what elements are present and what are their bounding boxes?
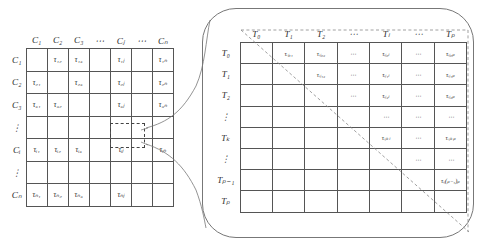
- row-label-c3: C₃: [8, 94, 26, 117]
- cell: τᵢⱼ₀ₚ: [434, 43, 466, 64]
- col-header-c1: C₁: [26, 32, 47, 49]
- cell: ⋯: [434, 148, 466, 169]
- col-header-ellipsis-1: ⋯: [337, 26, 369, 43]
- cell: [402, 191, 434, 212]
- cell: ⋯: [337, 64, 369, 85]
- cell: ⋯: [434, 106, 466, 127]
- cell: ⋯: [402, 148, 434, 169]
- table-row: Tₚ: [212, 191, 467, 212]
- cell: [68, 94, 89, 117]
- cell: [131, 184, 152, 207]
- cell: [305, 148, 337, 169]
- cell: [47, 161, 68, 184]
- cell: [272, 85, 304, 106]
- cell: [305, 170, 337, 191]
- row-label-c2: C₂: [8, 71, 26, 94]
- cell: [89, 139, 110, 162]
- cell: [272, 127, 304, 148]
- cell: [26, 116, 47, 139]
- row-label-ci: Cᵢ: [8, 139, 26, 162]
- cell: [272, 191, 304, 212]
- left-matrix: C₁ C₂ C₃ ⋯ Cⱼ ⋯ Cₙ C₁ τ₁₂ τ₁₃ τ₁ⱼ τ₁ₙ C₂: [8, 32, 174, 207]
- cell: [337, 191, 369, 212]
- cell: [305, 85, 337, 106]
- cell: [240, 43, 272, 64]
- cell: ⋯: [337, 43, 369, 64]
- cell: [89, 116, 110, 139]
- col-header-cj: Cⱼ: [110, 32, 131, 49]
- col-header-ellipsis-2: ⋯: [131, 32, 152, 49]
- table-row: Cᵢ τᵢ₁ τᵢ₂ τᵢ₃ τᵢⱼ τᵢₙ: [8, 139, 174, 162]
- cell: τ₁ⱼ: [110, 49, 131, 72]
- cell: [131, 71, 152, 94]
- cell: τᵢ₃: [68, 139, 89, 162]
- cell: τ₁₃: [68, 49, 89, 72]
- cell: τᵢⱼ₀₁: [272, 43, 304, 64]
- cell: [110, 161, 131, 184]
- cell: [402, 170, 434, 191]
- row-label-ellipsis-2: ⋮: [212, 148, 240, 169]
- cell: [305, 191, 337, 212]
- cell: ⋯: [402, 85, 434, 106]
- cell: τ₁₂: [47, 49, 68, 72]
- cell: τₙⱼ: [110, 184, 131, 207]
- cell: [89, 161, 110, 184]
- cell: [47, 116, 68, 139]
- cell: τ₃₁: [26, 94, 47, 117]
- cell: τₙ₁: [26, 184, 47, 207]
- table-row: C₁ τ₁₂ τ₁₃ τ₁ⱼ τ₁ₙ: [8, 49, 174, 72]
- cell: τᵢⱼ₁ₚ: [434, 64, 466, 85]
- col-header-c3: C₃: [68, 32, 89, 49]
- cell: [26, 161, 47, 184]
- col-header-c2: C₂: [47, 32, 68, 49]
- col-header-tl: Tₗ: [370, 26, 402, 43]
- cell: τ₂ₙ: [152, 71, 173, 94]
- cell: [337, 127, 369, 148]
- corner-spacer: [212, 26, 240, 43]
- table-row: T₁ τᵢⱼ₁₂ ⋯ τᵢⱼ₁ₗ ⋯ τᵢⱼ₁ₚ: [212, 64, 467, 85]
- cell: ⋯: [402, 43, 434, 64]
- cell: [240, 106, 272, 127]
- table-row: C₂ τ₂₁ τ₂₃ τ₂ⱼ τ₂ₙ: [8, 71, 174, 94]
- cell: [434, 191, 466, 212]
- cell: [89, 71, 110, 94]
- cell: [240, 64, 272, 85]
- cell: τ₂₁: [26, 71, 47, 94]
- row-label-ellipsis-1: ⋮: [8, 116, 26, 139]
- row-label-ellipsis-2: ⋮: [8, 161, 26, 184]
- cell: [337, 148, 369, 169]
- row-label-t2: T₂: [212, 85, 240, 106]
- time-pheromone-table: T₀ T₁ T₂ ⋯ Tₗ ⋯ Tₚ T₀ τᵢⱼ₀₁ τᵢⱼ₀₂ ⋯ τᵢⱼ₀…: [212, 26, 467, 213]
- cell: ⋯: [402, 106, 434, 127]
- cell: [68, 161, 89, 184]
- right-matrix: T₀ T₁ T₂ ⋯ Tₗ ⋯ Tₚ T₀ τᵢⱼ₀₁ τᵢⱼ₀₂ ⋯ τᵢⱼ₀…: [212, 26, 467, 213]
- cell: [272, 148, 304, 169]
- row-label-tp: Tₚ: [212, 191, 240, 212]
- table-header-row: C₁ C₂ C₃ ⋯ Cⱼ ⋯ Cₙ: [8, 32, 174, 49]
- cell: τᵢⱼ₀ₗ: [370, 43, 402, 64]
- row-label-cn: Cₙ: [8, 184, 26, 207]
- cell: [240, 85, 272, 106]
- cell: [337, 170, 369, 191]
- cell: [240, 127, 272, 148]
- table-row: ⋮: [8, 116, 174, 139]
- cell: [68, 116, 89, 139]
- cell: τ₂₃: [68, 71, 89, 94]
- table-row: Tₖ τᵢⱼₖₗ ⋯ τᵢⱼₖₚ: [212, 127, 467, 148]
- cell: τᵢⱼ₀₂: [305, 43, 337, 64]
- cell: [337, 106, 369, 127]
- col-header-cn: Cₙ: [152, 32, 173, 49]
- cell: [47, 71, 68, 94]
- col-header-tp: Tₚ: [434, 26, 466, 43]
- cell: [152, 184, 173, 207]
- cell: [131, 94, 152, 117]
- cell: ⋯: [337, 85, 369, 106]
- city-pheromone-table: C₁ C₂ C₃ ⋯ Cⱼ ⋯ Cₙ C₁ τ₁₂ τ₁₃ τ₁ⱼ τ₁ₙ C₂: [8, 32, 174, 207]
- row-label-c1: C₁: [8, 49, 26, 72]
- row-label-ellipsis-1: ⋮: [212, 106, 240, 127]
- cell: τᵢⱼₖₚ: [434, 127, 466, 148]
- cell: τᵢⱼ₁₂: [305, 64, 337, 85]
- cell: τ₃ₙ: [152, 94, 173, 117]
- row-label-t0: T₀: [212, 43, 240, 64]
- cell: τᵢⱼ₂ₚ: [434, 85, 466, 106]
